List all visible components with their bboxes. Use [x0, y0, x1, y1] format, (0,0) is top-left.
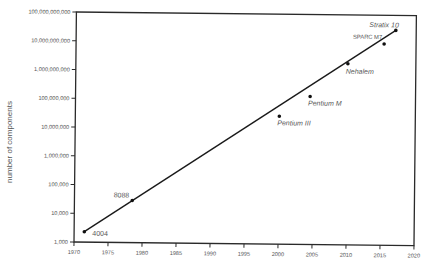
- y-axis-ticks: 1,00010,000100,0001,000,00010,000,000100…: [26, 9, 76, 245]
- data-point-marker: [278, 114, 282, 118]
- trend-line: [84, 27, 396, 235]
- y-tick-label: 100,000,000: [38, 95, 69, 101]
- y-tick-label: 100,000,000,000: [28, 9, 70, 15]
- data-points: 40048088Pentium IIIPentium MNehalemSPARC…: [82, 18, 399, 240]
- data-point-marker: [382, 42, 386, 46]
- x-tick-label: 2015: [374, 252, 387, 258]
- data-point-label: Pentium M: [308, 99, 342, 106]
- data-point-marker: [308, 95, 312, 99]
- x-tick-label: 1995: [238, 251, 251, 257]
- moores-law-chart: number of components 1,00010,000100,0001…: [0, 0, 429, 269]
- x-tick-label: 2020: [408, 252, 421, 258]
- y-tick-label: 100,000: [48, 181, 68, 187]
- data-point-label: SPARC M7: [353, 34, 382, 40]
- data-point-label: 4004: [92, 230, 108, 237]
- x-tick-label: 2005: [306, 251, 319, 257]
- data-point-label: 8088: [114, 191, 130, 198]
- x-tick-label: 1985: [170, 250, 183, 256]
- y-tick-label: 10,000,000,000: [31, 37, 70, 43]
- y-tick-label: 1,000,000: [44, 152, 69, 158]
- y-tick-label: 1,000: [54, 239, 68, 245]
- y-axis-title: number of components: [5, 101, 14, 183]
- x-tick-label: 2010: [340, 252, 353, 258]
- y-tick-label: 1,000,000,000: [34, 66, 70, 72]
- y-tick-label: 10,000,000: [41, 124, 69, 130]
- x-tick-label: 1990: [204, 250, 217, 256]
- x-tick-label: 2000: [272, 251, 285, 257]
- plot-area: 1,00010,000100,0001,000,00010,000,000100…: [26, 9, 423, 259]
- y-tick-label: 10,000: [51, 210, 68, 216]
- x-tick-label: 1980: [136, 250, 149, 256]
- plot-frame: [74, 12, 416, 246]
- data-point-label: Nehalem: [346, 68, 374, 75]
- x-tick-label: 1970: [68, 249, 81, 255]
- data-point-label: Stratix 10: [369, 21, 399, 28]
- x-tick-label: 1975: [102, 249, 115, 255]
- data-point-label: Pentium III: [277, 119, 311, 126]
